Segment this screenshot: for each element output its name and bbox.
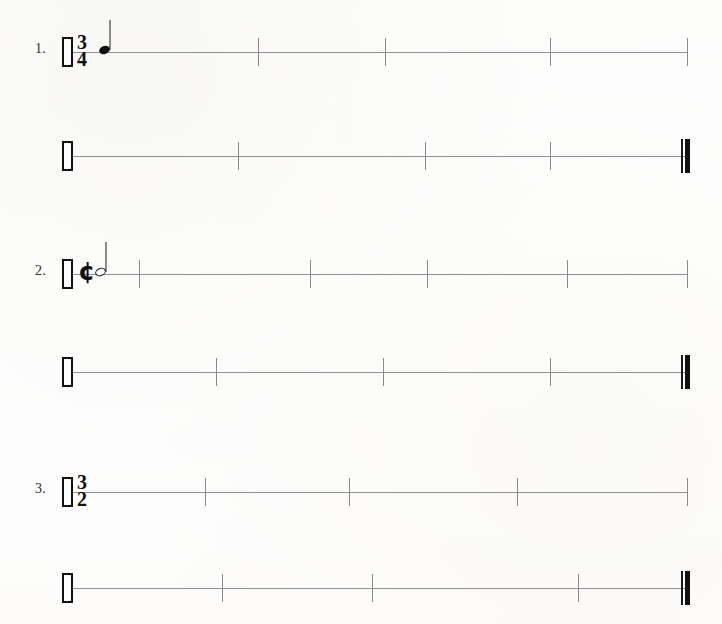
opening-barline	[62, 141, 73, 171]
staff-line	[62, 52, 688, 53]
measure-divider-tick	[425, 142, 426, 170]
opening-barline	[62, 357, 73, 387]
measure-divider-tick	[349, 478, 350, 506]
opening-barline	[62, 37, 73, 67]
staff-line	[62, 156, 690, 157]
exercise-number-label: 2.	[35, 263, 46, 279]
time-signature: 34	[77, 34, 87, 68]
measure-divider-tick	[687, 260, 688, 288]
note-stem	[109, 20, 110, 50]
measure-divider-tick	[550, 38, 551, 66]
notehead	[98, 44, 111, 55]
opening-barline	[62, 573, 73, 603]
measure-divider-tick	[427, 260, 428, 288]
final-barline	[681, 571, 690, 605]
measure-divider-tick	[310, 260, 311, 288]
measure-divider-tick	[372, 574, 373, 602]
exercise-1-system-1: 34	[62, 24, 688, 80]
opening-barline	[62, 259, 73, 289]
measure-divider-tick	[567, 260, 568, 288]
measure-divider-tick	[550, 358, 551, 386]
staff-line	[62, 372, 690, 373]
measure-divider-tick	[383, 358, 384, 386]
measure-divider-tick	[238, 142, 239, 170]
measure-divider-tick	[687, 478, 688, 506]
exercise-2-system-1: ¢	[62, 246, 688, 302]
final-barline	[681, 139, 690, 173]
final-barline	[681, 355, 690, 389]
exercise-number-label: 3.	[35, 481, 46, 497]
final-barline-thick	[685, 571, 690, 605]
measure-divider-tick	[578, 574, 579, 602]
measure-divider-tick	[517, 478, 518, 506]
measure-divider-tick	[385, 38, 386, 66]
exercise-2-system-2	[62, 344, 690, 400]
time-signature: 32	[77, 474, 87, 508]
measure-divider-tick	[216, 358, 217, 386]
exercise-3-system-1: 32	[62, 464, 688, 520]
exercise-1-system-2	[62, 128, 690, 184]
final-barline-thick	[685, 355, 690, 389]
time-signature-denominator: 4	[77, 51, 87, 68]
staff-line	[62, 588, 690, 589]
staff-line	[62, 274, 688, 275]
measure-divider-tick	[687, 38, 688, 66]
note-stem	[105, 242, 106, 272]
paper-texture	[0, 0, 722, 624]
exercise-3-system-2	[62, 560, 690, 616]
time-signature-denominator: 2	[77, 491, 87, 508]
opening-barline	[62, 477, 73, 507]
measure-divider-tick	[258, 38, 259, 66]
quarter-note	[97, 24, 123, 68]
worksheet-page: 341.¢2.323.	[0, 0, 722, 624]
exercise-number-label: 1.	[35, 41, 46, 57]
half-note	[93, 246, 119, 290]
measure-divider-tick	[222, 574, 223, 602]
measure-divider-tick	[139, 260, 140, 288]
final-barline-thick	[685, 139, 690, 173]
staff-line	[62, 492, 688, 493]
notehead	[94, 266, 107, 277]
measure-divider-tick	[550, 142, 551, 170]
measure-divider-tick	[205, 478, 206, 506]
